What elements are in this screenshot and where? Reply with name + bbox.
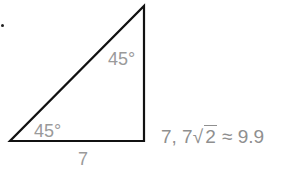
right-triangle (10, 6, 144, 141)
side-prefix: 7, 7 (161, 126, 193, 147)
triangle-figure (0, 0, 292, 178)
approx-value: ≈ 9.9 (217, 126, 264, 147)
radicand: 2 (204, 125, 217, 147)
bottom-angle-label: 45° (34, 122, 61, 140)
side-lengths-label: 7, 7√2 ≈ 9.9 (161, 127, 264, 146)
leg-length-label: 7 (78, 150, 88, 168)
sqrt-symbol: √2 (193, 127, 217, 146)
top-angle-label: 45° (108, 50, 135, 68)
